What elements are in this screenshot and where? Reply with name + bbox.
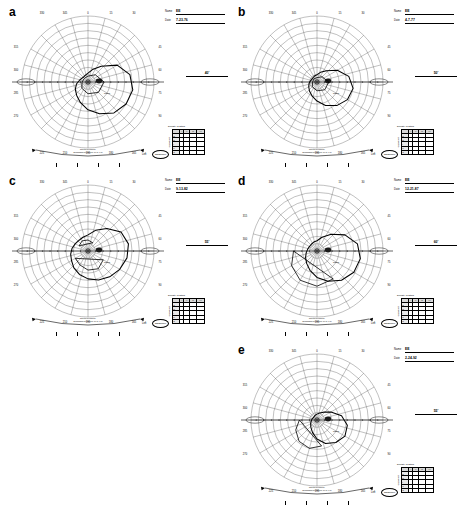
axis-tick [348,163,349,167]
density-table-cell[interactable] [197,319,205,323]
svg-text:15: 15 [110,11,113,15]
name-row: Name EE [394,7,454,15]
polar-chart: 3303450153022521019518016531530028527045… [8,10,168,165]
svg-text:75: 75 [159,260,162,264]
eye-label: Left [371,491,375,494]
svg-text:60: 60 [388,68,391,72]
svg-text:45: 45 [388,45,391,49]
name-value: EE [176,10,225,15]
density-table-side-label: Quadrant [168,298,172,324]
axis-tick [306,332,307,336]
density-table-body: IIIIIIIVSNITC [173,298,205,323]
axis-tick [327,501,328,505]
svg-text:270: 270 [14,283,19,287]
svg-text:285: 285 [14,260,19,264]
density-table-block: Density of Stars Quadrant IIIIIIIVSNITC [397,464,435,493]
density-table: IIIIIIIVSNITC [401,298,434,324]
bottom-tick-row [56,163,120,167]
name-row: Name EE [394,176,454,184]
density-table-cell[interactable] [419,319,426,323]
date-row: Date 9-13-82 [165,185,225,193]
svg-text:45: 45 [159,214,162,218]
svg-text:60: 60 [159,237,162,241]
svg-text:0: 0 [316,11,318,15]
patient-id-block: Name EE Date 4-7-77 [394,7,454,25]
patient-id-block: Name EE Date 7-23-76 [165,7,225,25]
svg-text:285: 285 [243,429,248,433]
date-value: 2-24-92 [405,357,454,362]
density-table-cell[interactable] [197,150,205,154]
svg-text:45: 45 [388,214,391,218]
density-table-side-label: Quadrant [397,467,401,493]
patient-id-block: Name EE Date 2-24-92 [394,345,454,363]
svg-text:90: 90 [388,114,391,118]
svg-text:90: 90 [159,283,162,287]
acuity-rule [186,245,228,246]
polar-chart: 3303450153022521019518016531530028527045… [8,179,168,334]
chart-caption: kinetic perimetry Goldmann perimeter III… [40,148,136,154]
bottom-tick-row [285,501,349,505]
density-table-cell[interactable] [426,150,434,154]
svg-text:30: 30 [362,180,365,184]
panel-e: e Name EE Date 2-24-92 55' 3303450153022… [229,338,458,507]
acuity-rule [415,76,457,77]
acuity-rule [415,245,457,246]
density-table-row: C [173,319,205,323]
svg-text:285: 285 [243,260,248,264]
acuity-rule [415,414,457,415]
acuity-block: 55' [415,410,457,415]
density-table-cell[interactable] [419,150,426,154]
date-row: Date 12-21-87 [394,185,454,193]
axis-tick [98,163,99,167]
arrow-head-icon [32,149,36,152]
density-table-block: Density of Stars Quadrant IIIIIIIVSNITC [397,295,435,324]
density-table: IIIIIIIVSNITC [172,129,205,155]
density-table-row-label: C [402,150,409,154]
arrow-head-icon [140,318,144,321]
isopter-annotation: Nasal [333,430,340,433]
isopter-annotation: Nasal [104,92,111,95]
density-table-cell[interactable] [190,319,197,323]
panel-d: d Name EE Date 12-21-87 60' 330345015302… [229,169,458,338]
density-table-row: C [402,319,434,323]
svg-text:90: 90 [388,452,391,456]
eye-label: Left [142,322,146,325]
eye-label: Left [371,322,375,325]
svg-text:30: 30 [362,349,365,353]
goldmann-stamp: Goldmann [381,150,398,159]
density-table-cell[interactable] [426,488,434,492]
polar-chart: 3303450153022521019518016531530028527045… [237,348,397,503]
svg-text:45: 45 [388,383,391,387]
acuity-value: 55' [415,410,457,413]
svg-text:270: 270 [243,283,248,287]
arrow-head-icon [32,318,36,321]
density-table-cell[interactable] [190,150,197,154]
density-table: IIIIIIIVSNITC [401,467,434,493]
date-row: Date 7-23-76 [165,16,225,24]
density-table-cell[interactable] [426,319,434,323]
density-table-side-label: Quadrant [397,298,401,324]
arrow-head-icon [261,487,265,490]
axis-tick [98,332,99,336]
svg-text:0: 0 [316,349,318,353]
density-table-row-label: C [173,319,180,323]
name-value: EE [405,179,454,184]
chart-caption: kinetic perimetry Goldmann perimeter III… [269,317,365,323]
svg-text:90: 90 [388,283,391,287]
density-table-block: Density of Stars Quadrant IIIIIIIVSNITC [168,295,206,324]
density-table: IIIIIIIVSNITC [401,129,434,155]
svg-text:75: 75 [388,429,391,433]
density-table-cell[interactable] [419,488,426,492]
svg-text:300: 300 [243,68,248,72]
arrow-head-icon [140,149,144,152]
acuity-value: 55' [186,241,228,244]
date-value: 9-13-82 [176,188,225,193]
patient-id-block: Name EE Date 9-13-82 [165,176,225,194]
goldmann-stamp: Goldmann [381,319,398,328]
axis-tick [285,501,286,505]
name-value: EE [405,348,454,353]
svg-text:285: 285 [14,91,19,95]
svg-text:300: 300 [243,406,248,410]
svg-text:75: 75 [388,91,391,95]
axis-tick [306,501,307,505]
